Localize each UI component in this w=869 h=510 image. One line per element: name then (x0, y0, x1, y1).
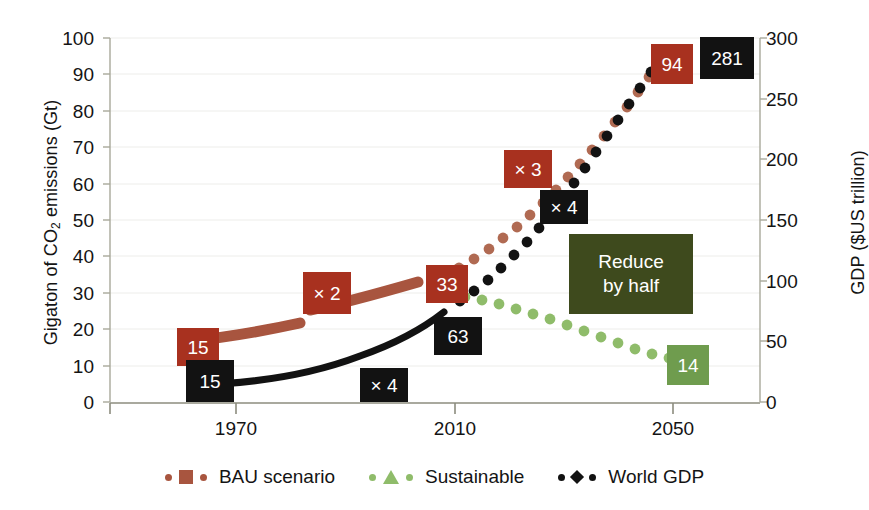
legend-dot-icon (406, 474, 413, 481)
x-tick-1970: 1970 (176, 418, 296, 440)
legend-dot-icon (589, 474, 596, 481)
chart-container: Gigaton of CO2 emissions (Gt) GDP ($US t… (0, 0, 869, 510)
legend-label-world-gdp: World GDP (608, 466, 704, 488)
legend-label-sustainable: Sustainable (425, 466, 524, 488)
bau-multiplier-label-2: × 3 (504, 150, 552, 188)
gdp-multiplier-label-2: × 4 (540, 190, 588, 224)
callout-line-2: by half (603, 274, 659, 298)
sustainable-value-label-2050: 14 (667, 345, 709, 385)
legend-item-world-gdp[interactable]: World GDP (558, 466, 704, 488)
reduce-by-half-callout: Reduce by half (569, 234, 693, 314)
legend-item-bau-scenario[interactable]: BAU scenario (165, 466, 335, 488)
legend-dot-icon (200, 474, 207, 481)
legend-square-icon (179, 470, 193, 484)
x-tick-2010: 2010 (395, 418, 515, 440)
legend-triangle-icon (383, 470, 399, 484)
legend-diamond-icon (570, 470, 584, 484)
legend-label-bau-scenario: BAU scenario (219, 466, 335, 488)
legend-dot-icon (165, 474, 172, 481)
gdp-value-label-1965: 15 (186, 360, 234, 402)
gdp-value-label-2050: 281 (700, 37, 754, 79)
legend-item-sustainable[interactable]: Sustainable (369, 466, 524, 488)
chart-legend: BAU scenario Sustainable World GDP (0, 462, 869, 492)
gdp-multiplier-label-1: × 4 (360, 368, 408, 402)
gdp-value-label-2010: 63 (434, 317, 482, 355)
bau-value-label-2050: 94 (651, 44, 693, 84)
bau-multiplier-label-1: × 2 (303, 272, 351, 314)
legend-dot-icon (369, 474, 376, 481)
callout-line-1: Reduce (598, 250, 664, 274)
bau-value-label-2010: 33 (426, 265, 468, 303)
legend-dot-icon (558, 474, 565, 481)
x-tick-2050: 2050 (613, 418, 733, 440)
